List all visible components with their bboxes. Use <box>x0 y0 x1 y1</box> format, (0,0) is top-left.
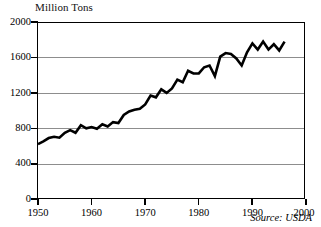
y-axis-label-2000: 2000 <box>0 17 31 27</box>
chart-title: Million Tons <box>35 1 93 13</box>
y-axis-label-1600: 1600 <box>0 52 31 62</box>
y-axis-labels: 2000 1600 1200 800 400 0 <box>0 0 31 227</box>
x-axis-label-1980: 1980 <box>179 207 219 218</box>
x-tick-1970 <box>144 199 146 205</box>
x-tick-2000 <box>305 199 307 205</box>
x-axis-label-1960: 1960 <box>72 207 112 218</box>
x-tick-1990 <box>251 199 253 205</box>
x-tick-1980 <box>198 199 200 205</box>
plot-area <box>37 22 305 199</box>
x-tick-1950 <box>37 199 39 205</box>
y-axis-label-800: 800 <box>0 123 31 133</box>
x-axis-label-1970: 1970 <box>125 207 165 218</box>
y-axis-label-400: 400 <box>0 158 31 168</box>
chart-root: Million Tons 2000 1600 1200 800 400 0 19… <box>0 0 321 227</box>
x-axis-label-1950: 1950 <box>18 207 58 218</box>
source-annotation: Source: USDA <box>250 212 312 223</box>
plot-inner <box>38 23 304 198</box>
series-path <box>38 42 285 145</box>
data-series-line <box>38 23 304 198</box>
x-tick-1960 <box>91 199 93 205</box>
y-axis-label-1200: 1200 <box>0 88 31 98</box>
y-axis-label-0: 0 <box>0 194 31 204</box>
